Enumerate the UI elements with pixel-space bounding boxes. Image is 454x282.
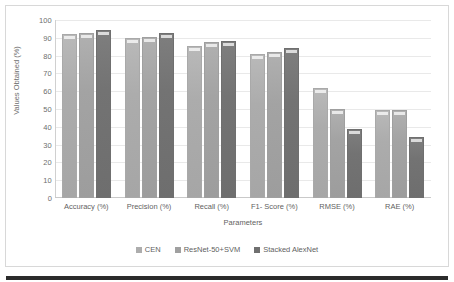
x-axis-tick-label: RAE (%) (368, 202, 431, 216)
bar-group (368, 20, 431, 198)
bar-group (118, 20, 181, 198)
bar[interactable] (267, 52, 282, 198)
bar[interactable] (204, 42, 219, 198)
legend-label: ResNet-50+SVM (184, 245, 240, 254)
bottom-rule (6, 276, 448, 280)
y-axis-tick-label: 40 (8, 122, 52, 131)
y-axis-tick-label: 10 (8, 176, 52, 185)
bar[interactable] (347, 129, 362, 198)
y-axis-tick-label: 0 (8, 194, 52, 203)
bar[interactable] (96, 30, 111, 198)
bar-group (306, 20, 369, 198)
y-axis-tick-label: 80 (8, 51, 52, 60)
legend-swatch-icon (254, 247, 260, 253)
y-axis-ticks: 1009080706050403020100 (0, 20, 52, 198)
bar[interactable] (250, 54, 265, 198)
bar[interactable] (409, 137, 424, 198)
legend-swatch-icon (136, 247, 142, 253)
bar[interactable] (142, 37, 157, 198)
bar[interactable] (159, 33, 174, 198)
y-axis-tick-label: 30 (8, 140, 52, 149)
y-axis-tick-label: 50 (8, 105, 52, 114)
plot-area (55, 20, 431, 198)
legend-item[interactable]: CEN (136, 245, 161, 254)
bar[interactable] (284, 48, 299, 198)
bar[interactable] (125, 38, 140, 198)
bar[interactable] (79, 33, 94, 198)
legend-label: CEN (145, 245, 161, 254)
x-axis-tick-label: Recall (%) (180, 202, 243, 216)
bar[interactable] (221, 41, 236, 198)
legend-swatch-icon (175, 247, 181, 253)
bar-group (55, 20, 118, 198)
y-axis-tick-label: 100 (8, 16, 52, 25)
x-axis-tick-label: F1- Score (%) (243, 202, 306, 216)
y-axis-tick-label: 60 (8, 87, 52, 96)
bar[interactable] (330, 109, 345, 198)
legend-label: Stacked AlexNet (263, 245, 318, 254)
bar-groups (55, 20, 431, 198)
bar[interactable] (375, 110, 390, 198)
bar[interactable] (392, 110, 407, 198)
x-axis-tick-label: Precision (%) (118, 202, 181, 216)
x-axis-title: Parameters (55, 218, 431, 227)
chart-figure: Values Obtained (%) 10090807060504030201… (0, 0, 454, 282)
y-axis-tick-label: 20 (8, 158, 52, 167)
bar[interactable] (187, 46, 202, 198)
x-axis-ticks: Accuracy (%)Precision (%)Recall (%)F1- S… (55, 202, 431, 216)
legend-item[interactable]: Stacked AlexNet (254, 245, 318, 254)
chart-legend: CENResNet-50+SVMStacked AlexNet (0, 245, 454, 254)
legend-item[interactable]: ResNet-50+SVM (175, 245, 240, 254)
x-axis-tick-label: Accuracy (%) (55, 202, 118, 216)
bar-group (180, 20, 243, 198)
bar[interactable] (313, 88, 328, 198)
bar[interactable] (62, 34, 77, 198)
y-axis-tick-label: 70 (8, 69, 52, 78)
bar-group (243, 20, 306, 198)
x-axis-tick-label: RMSE (%) (306, 202, 369, 216)
y-axis-tick-label: 90 (8, 33, 52, 42)
